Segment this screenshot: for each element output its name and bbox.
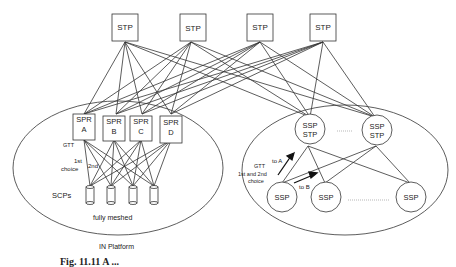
scps-label: SCPs bbox=[52, 191, 71, 200]
second-choice-label: 2nd bbox=[88, 163, 98, 169]
spr-group: SPR A SPR B SPR C SPR D bbox=[73, 114, 182, 143]
first-choice-label: 1st bbox=[74, 158, 82, 164]
to-a-label: to A bbox=[272, 158, 282, 164]
ssp-group: SSP SSP SSP bbox=[267, 182, 426, 212]
stp-label: STP bbox=[117, 23, 133, 32]
spr-id: D bbox=[168, 128, 174, 137]
spr-label: SPR bbox=[133, 117, 149, 126]
fully-meshed-label: fully meshed bbox=[93, 214, 132, 222]
in-platform-label: IN Platform bbox=[99, 243, 134, 250]
stp-label: STP bbox=[252, 23, 268, 32]
spr-id: A bbox=[81, 125, 86, 134]
spr-label: SPR bbox=[106, 117, 122, 126]
spr-label: SPR bbox=[76, 115, 92, 124]
ssp-label: SSP bbox=[403, 193, 418, 202]
gtt-choice-label: choice bbox=[248, 178, 264, 184]
stp-group: STP STP STP STP bbox=[112, 14, 336, 41]
scp-database-icon bbox=[150, 186, 158, 205]
ssp-stp-label: STP bbox=[303, 130, 318, 139]
scp-database-icon bbox=[86, 186, 94, 205]
spr-id: C bbox=[138, 127, 144, 136]
ssp-label: SSP bbox=[274, 193, 289, 202]
routing-arrows bbox=[278, 153, 317, 183]
to-b-label: to B bbox=[299, 184, 310, 190]
scp-group bbox=[86, 186, 158, 205]
scp-database-icon bbox=[129, 186, 137, 205]
scp-database-icon bbox=[107, 186, 115, 205]
choice-label: choice bbox=[61, 166, 79, 172]
spr-id: B bbox=[111, 127, 116, 136]
sspstp-ssp-links bbox=[282, 146, 410, 183]
ssp-stp-label: STP bbox=[370, 131, 385, 140]
stp-label: STP bbox=[185, 24, 201, 33]
ssp-stp-group: SSP STP SSP STP bbox=[295, 114, 392, 145]
stp-label: STP bbox=[315, 23, 331, 32]
ssp-network-ellipse bbox=[242, 105, 448, 235]
gtt-label: GTT bbox=[63, 142, 75, 148]
figure-caption: Fig. 11.11 A ... bbox=[60, 256, 119, 267]
ssp-label: SSP bbox=[318, 193, 333, 202]
spr-label: SPR bbox=[163, 118, 179, 127]
ssp-stp-label: SSP bbox=[369, 122, 384, 131]
stp-spr-links bbox=[84, 42, 323, 114]
gtt-choice-label: 1st and 2nd bbox=[238, 171, 267, 177]
ssp-stp-label: SSP bbox=[302, 121, 317, 130]
gtt-label: GTT bbox=[254, 163, 266, 169]
